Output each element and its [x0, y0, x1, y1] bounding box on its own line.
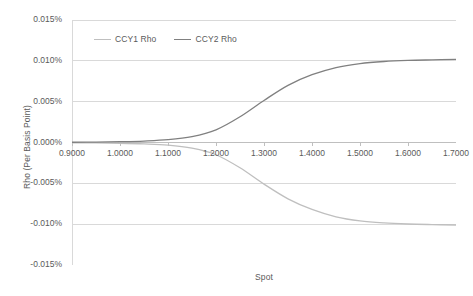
y-axis-tick-label: 0.005% — [0, 96, 62, 106]
x-axis-tick-label: 1.6000 — [385, 148, 431, 158]
legend-item-label: CCY2 Rho — [195, 34, 236, 44]
series-line-ccy2-rho — [72, 59, 456, 142]
x-axis-tick-label: 1.1000 — [145, 148, 191, 158]
x-axis-tick-label: 0.9000 — [49, 148, 95, 158]
y-axis-tick-label: 0.010% — [0, 55, 62, 65]
y-axis-tick-label: -0.010% — [0, 218, 62, 228]
chart-container: Rho (Per Basis Point) 0.015%0.010%0.005%… — [0, 0, 473, 296]
plot-svg — [72, 20, 456, 265]
x-axis-tick-label: 1.5000 — [337, 148, 383, 158]
y-axis-tick-label: -0.005% — [0, 177, 62, 187]
y-axis-tick-label: -0.015% — [0, 259, 62, 269]
x-axis-tick-label: 1.3000 — [241, 148, 287, 158]
y-axis-title: Rho (Per Basis Point) — [22, 62, 32, 232]
plot-area: CCY1 RhoCCY2 Rho 0.90001.00001.10001.200… — [72, 20, 456, 265]
y-axis-tick-label: 0.015% — [0, 14, 62, 24]
x-axis-title: Spot — [72, 272, 456, 282]
x-axis-tick-label: 1.2000 — [193, 148, 239, 158]
x-axis-tick-label: 1.7000 — [433, 148, 473, 158]
legend-item-label: CCY1 Rho — [115, 34, 156, 44]
chart-legend: CCY1 RhoCCY2 Rho — [94, 34, 237, 44]
legend-item[interactable]: CCY1 Rho — [94, 34, 156, 44]
legend-line-swatch-icon — [94, 39, 111, 40]
gridlines — [72, 20, 456, 265]
legend-item[interactable]: CCY2 Rho — [174, 34, 236, 44]
y-axis-tick-label: 0.000% — [0, 137, 62, 147]
x-axis-tick-label: 1.4000 — [289, 148, 335, 158]
legend-line-swatch-icon — [174, 39, 191, 40]
x-axis-tick-label: 1.0000 — [97, 148, 143, 158]
